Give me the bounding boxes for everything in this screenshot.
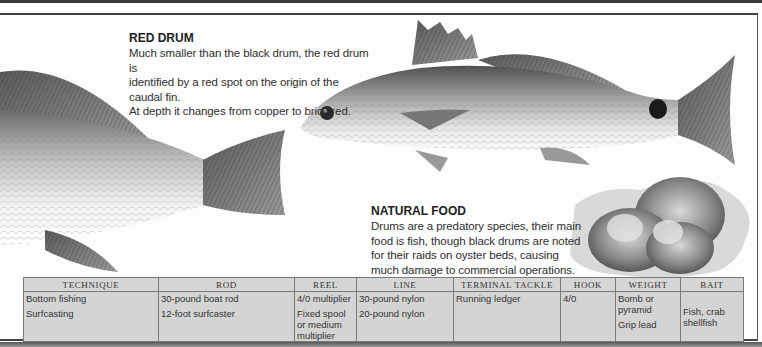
- header-weight: WEIGHT: [616, 278, 681, 292]
- cell-technique: Bottom fishing Surfcasting: [24, 292, 159, 342]
- cell-reel: 4/0 multiplier Fixed spool or medium mul…: [295, 292, 357, 342]
- table-header-row: TECHNIQUE ROD REEL LINE TERMINAL TACKLE …: [24, 278, 744, 292]
- header-bait: BAIT: [681, 278, 744, 292]
- red-drum-caption: RED DRUM Much smaller than the black dru…: [129, 31, 369, 119]
- red-drum-line: Much smaller than the black drum, the re…: [129, 46, 369, 75]
- cell-line: 30-pound nylon 20-pound nylon: [357, 292, 454, 342]
- table-row: Bottom fishing Surfcasting 30-pound boat…: [24, 292, 744, 342]
- header-line: LINE: [357, 278, 454, 292]
- cell-bait: Fish, crab shellfish: [681, 292, 744, 342]
- bottom-rule: [0, 342, 762, 347]
- cell-hook: 4/0: [561, 292, 616, 342]
- red-drum-title: RED DRUM: [129, 31, 369, 46]
- header-hook: HOOK: [561, 278, 616, 292]
- red-drum-line: identified by a red spot on the origin o…: [129, 75, 369, 104]
- cell-terminal-tackle: Running ledger: [454, 292, 561, 342]
- natural-food-title: NATURAL FOOD: [371, 204, 586, 219]
- header-rod: ROD: [159, 278, 295, 292]
- page: RED DRUM Much smaller than the black dru…: [0, 0, 762, 347]
- natural-food-line: for their raids on oyster beds, causing: [371, 248, 586, 263]
- natural-food-line: much damage to commercial operations.: [371, 263, 586, 278]
- red-drum-line: At depth it changes from copper to brick…: [129, 104, 369, 119]
- oyster-cluster-illustration: [570, 177, 750, 278]
- natural-food-caption: NATURAL FOOD Drums are a predatory speci…: [371, 204, 586, 277]
- cell-weight: Bomb or pyramid Grip lead: [616, 292, 681, 342]
- cell-rod: 30-pound boat rod 12-foot surfcaster: [159, 292, 295, 342]
- header-technique: TECHNIQUE: [24, 278, 159, 292]
- header-terminal-tackle: TERMINAL TACKLE: [454, 278, 561, 292]
- header-reel: REEL: [295, 278, 357, 292]
- natural-food-line: food is fish, though black drums are not…: [371, 234, 586, 249]
- natural-food-line: Drums are a predatory species, their mai…: [371, 219, 586, 234]
- tackle-table: TECHNIQUE ROD REEL LINE TERMINAL TACKLE …: [23, 277, 744, 342]
